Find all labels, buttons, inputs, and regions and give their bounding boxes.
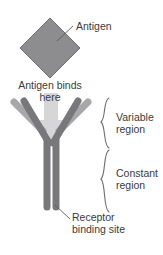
label-constant-region: Constant region bbox=[116, 168, 162, 191]
label-variable-region: Variable region bbox=[116, 112, 162, 135]
label-variable-line2: region bbox=[116, 124, 162, 136]
label-constant-line2: region bbox=[116, 180, 162, 192]
label-antigen-binds-line2: here bbox=[7, 92, 93, 104]
label-antigen-binds-here: Antigen binds here bbox=[7, 80, 93, 103]
receptor-leader-line bbox=[55, 205, 70, 219]
label-antigen-binds-line1: Antigen binds bbox=[7, 80, 93, 92]
variable-region-brace bbox=[101, 98, 109, 148]
label-constant-line1: Constant bbox=[116, 168, 162, 180]
antigen-diamond bbox=[20, 18, 80, 78]
label-variable-line1: Variable bbox=[116, 112, 162, 124]
label-antigen: Antigen bbox=[76, 21, 112, 33]
constant-region-brace bbox=[101, 150, 109, 212]
label-receptor-line1: Receptor bbox=[72, 212, 162, 224]
label-receptor-binding-site: Receptor binding site bbox=[72, 212, 162, 235]
label-receptor-line2: binding site bbox=[72, 224, 162, 236]
antibody-diagram: Antigen Antigen binds here Variable regi… bbox=[0, 0, 163, 255]
